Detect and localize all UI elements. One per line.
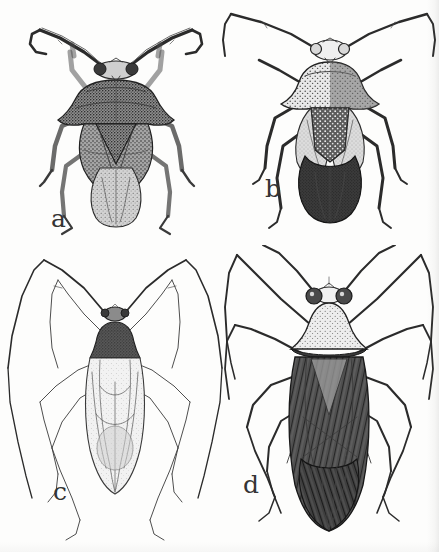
figure-label-d: d [243, 472, 259, 497]
figure-c [0, 252, 225, 552]
head [311, 38, 350, 64]
figure-label-c: c [53, 479, 67, 504]
head [94, 58, 138, 82]
abdomen [91, 168, 141, 227]
head [101, 304, 129, 321]
pronotum [281, 62, 379, 109]
membrane [299, 156, 362, 223]
pronotum [58, 80, 174, 125]
hemelytra [289, 357, 369, 531]
figure-a [0, 0, 220, 250]
figure-label-b: b [265, 176, 281, 201]
illustration-plate: a [0, 0, 439, 552]
figure-b [219, 0, 439, 250]
head [306, 283, 352, 304]
hemelytra [86, 358, 145, 494]
antennae [263, 245, 395, 293]
figure-label-a: a [51, 206, 66, 231]
pronotum [291, 303, 367, 358]
figure-d [219, 245, 439, 552]
